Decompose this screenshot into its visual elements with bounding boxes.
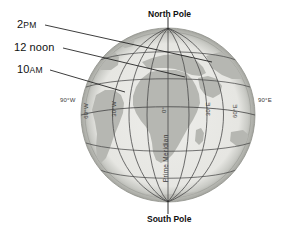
meridian-label-90e: 90°E [258, 97, 272, 103]
time-label-10am: 10AM [17, 64, 43, 75]
north-pole-label: North Pole [148, 10, 191, 19]
meridian-label-90w: 90°W [60, 97, 76, 103]
meridian-label-0: 0° [161, 107, 167, 113]
prime-meridian-label: Prime Meridian [163, 134, 170, 182]
time-label-12noon-value: 12 noon [14, 41, 54, 53]
time-label-12noon: 12 noon [14, 42, 54, 53]
meridian-label-60e: 60°E [232, 104, 238, 118]
time-label-10am-meridiem: AM [29, 65, 42, 75]
meridian-label-60w: 60°W [83, 103, 89, 119]
diagram-canvas: North Pole South Pole 2PM 12 noon 10AM 9… [0, 0, 284, 231]
time-label-2pm-meridiem: PM [23, 20, 36, 30]
meridian-label-30e: 30°E [205, 102, 211, 116]
globe-illustration [0, 0, 284, 231]
south-pole-label: South Pole [147, 215, 191, 224]
time-label-2pm: 2PM [17, 19, 37, 30]
time-label-10am-value: 10 [17, 63, 29, 75]
meridian-label-30w: 30°W [111, 101, 117, 117]
